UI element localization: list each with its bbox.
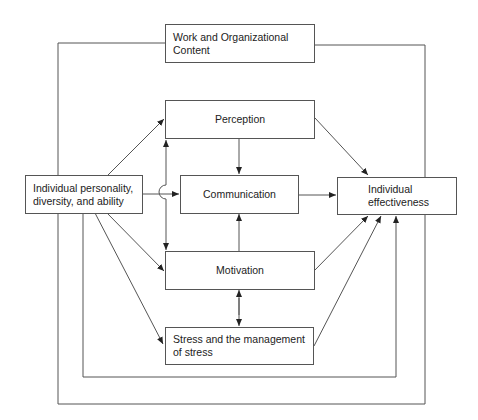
hop-arc bbox=[159, 185, 166, 199]
node-label: Perception bbox=[215, 113, 265, 126]
arrow-motivation-effectiveness bbox=[314, 216, 368, 271]
node-individual-personality: Individual personality, diversity, and a… bbox=[25, 175, 143, 214]
node-label: diversity, and ability bbox=[33, 195, 142, 208]
node-communication: Communication bbox=[180, 175, 299, 214]
node-perception: Perception bbox=[165, 100, 315, 139]
node-label: Content bbox=[173, 44, 314, 57]
node-motivation: Motivation bbox=[165, 251, 315, 290]
node-label: Communication bbox=[203, 188, 276, 201]
node-label: of stress bbox=[173, 346, 313, 359]
node-individual-effectiveness: Individual effectiveness bbox=[337, 177, 457, 215]
node-work-organizational-content: Work and Organizational Content bbox=[165, 24, 315, 63]
node-label: Work and Organizational bbox=[173, 31, 314, 44]
arrow-stress-effectiveness bbox=[314, 216, 381, 346]
node-label: Motivation bbox=[216, 264, 264, 277]
node-stress-management: Stress and the management of stress bbox=[165, 327, 314, 365]
node-label: Stress and the management bbox=[173, 333, 313, 346]
node-label: Individual personality, bbox=[33, 182, 142, 195]
arrow-individual-perception bbox=[108, 119, 164, 175]
node-label: Individual bbox=[368, 183, 456, 196]
arrow-perception-effectiveness bbox=[315, 118, 368, 175]
arrow-individual-motivation bbox=[107, 213, 164, 271]
arrow-individual-stress bbox=[95, 213, 163, 344]
node-label: effectiveness bbox=[368, 196, 456, 209]
